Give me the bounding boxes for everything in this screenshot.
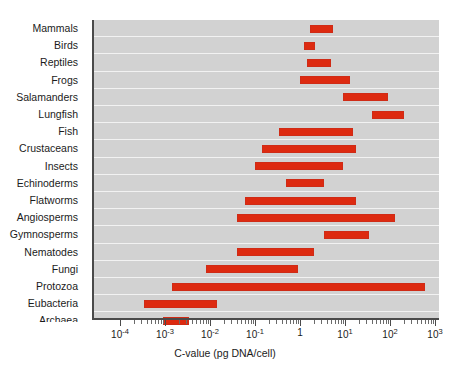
- x-tick-minor: [206, 320, 207, 324]
- x-tick-minor: [269, 320, 270, 324]
- range-bar-reptiles: [307, 59, 332, 67]
- x-tick-minor: [380, 320, 381, 324]
- x-tick-major: [165, 320, 166, 326]
- x-tick-label: 10-2: [201, 327, 219, 340]
- x-tick-minor: [141, 320, 142, 324]
- x-tick-minor: [231, 320, 232, 324]
- x-tick-minor: [331, 320, 332, 324]
- x-tick-minor: [147, 320, 148, 324]
- x-tick-minor: [338, 320, 339, 324]
- x-tick-minor: [241, 320, 242, 324]
- axis-label-clip-mask: [0, 322, 86, 340]
- x-tick-minor: [404, 320, 405, 324]
- category-label-flatworms: Flatworms: [30, 195, 78, 206]
- category-label-insects: Insects: [45, 161, 78, 172]
- x-tick-minor: [341, 320, 342, 324]
- row-band: [94, 123, 439, 140]
- x-tick-minor: [163, 320, 164, 324]
- range-bar-angiosperms: [237, 214, 395, 222]
- x-tick-minor: [321, 320, 322, 324]
- x-tick-minor: [359, 320, 360, 324]
- row-band: [94, 175, 439, 192]
- range-bar-mammals: [310, 25, 333, 33]
- row-band: [94, 37, 439, 54]
- x-tick-minor: [282, 320, 283, 324]
- x-tick-minor: [431, 320, 432, 324]
- x-tick-minor: [298, 320, 299, 324]
- x-tick-minor: [276, 320, 277, 324]
- x-tick-label: 103: [427, 327, 442, 340]
- x-tick-minor: [196, 320, 197, 324]
- row-band: [94, 72, 439, 89]
- x-tick-minor: [151, 320, 152, 324]
- x-tick-minor: [293, 320, 294, 324]
- category-label-gymnosperms: Gymnosperms: [10, 229, 78, 240]
- x-tick-minor: [417, 320, 418, 324]
- x-tick-minor: [421, 320, 422, 324]
- range-bar-eubacteria: [144, 300, 216, 308]
- x-tick-minor: [158, 320, 159, 324]
- x-tick-major: [255, 320, 256, 326]
- range-bar-echinoderms: [286, 179, 324, 187]
- x-tick-minor: [192, 320, 193, 324]
- category-label-echinoderms: Echinoderms: [17, 178, 78, 189]
- x-tick-minor: [425, 320, 426, 324]
- range-bar-flatworms: [245, 197, 356, 205]
- x-tick-minor: [335, 320, 336, 324]
- x-tick-minor: [290, 320, 291, 324]
- x-tick-minor: [224, 320, 225, 324]
- category-label-frogs: Frogs: [51, 75, 78, 86]
- x-tick-label: 10-4: [111, 327, 129, 340]
- range-bar-fish: [279, 128, 352, 136]
- category-label-fish: Fish: [58, 126, 78, 137]
- x-tick-minor: [388, 320, 389, 324]
- x-tick-minor: [286, 320, 287, 324]
- x-tick-minor: [237, 320, 238, 324]
- range-bar-birds: [304, 42, 316, 50]
- x-tick-label: 101: [337, 327, 352, 340]
- x-tick-major: [435, 320, 436, 326]
- category-label-nematodes: Nematodes: [24, 247, 78, 258]
- x-tick-minor: [203, 320, 204, 324]
- x-tick-major: [120, 320, 121, 326]
- x-tick-minor: [208, 320, 209, 324]
- category-label-reptiles: Reptiles: [40, 57, 78, 68]
- x-tick-major: [345, 320, 346, 326]
- x-tick-minor: [372, 320, 373, 324]
- range-bar-fungi: [206, 265, 298, 273]
- row-band: [94, 20, 439, 37]
- row-band: [94, 226, 439, 243]
- row-band: [94, 54, 439, 71]
- range-bar-frogs: [300, 76, 350, 84]
- x-tick-minor: [411, 320, 412, 324]
- x-tick-minor: [383, 320, 384, 324]
- x-tick-minor: [134, 320, 135, 324]
- x-tick-minor: [428, 320, 429, 324]
- x-tick-minor: [245, 320, 246, 324]
- x-axis-line: [92, 318, 439, 320]
- range-bar-lungfish: [372, 111, 403, 119]
- x-tick-minor: [314, 320, 315, 324]
- range-bar-insects: [255, 162, 343, 170]
- x-tick-minor: [253, 320, 254, 324]
- range-bar-crustaceans: [262, 145, 357, 153]
- x-tick-minor: [155, 320, 156, 324]
- range-bar-salamanders: [343, 93, 388, 101]
- c-value-range-chart: MammalsBirdsReptilesFrogsSalamandersLung…: [0, 0, 450, 371]
- x-tick-major: [300, 320, 301, 326]
- category-label-lungfish: Lungfish: [38, 109, 78, 120]
- x-tick-minor: [161, 320, 162, 324]
- x-tick-major: [390, 320, 391, 326]
- category-label-protozoa: Protozoa: [36, 281, 78, 292]
- range-bar-protozoa: [172, 283, 425, 291]
- category-label-eubacteria: Eubacteria: [28, 298, 78, 309]
- x-tick-minor: [386, 320, 387, 324]
- x-tick-minor: [248, 320, 249, 324]
- x-axis-title: C-value (pg DNA/cell): [0, 347, 450, 359]
- x-tick-minor: [327, 320, 328, 324]
- x-tick-minor: [433, 320, 434, 324]
- x-tick-label: 102: [382, 327, 397, 340]
- x-tick-minor: [186, 320, 187, 324]
- x-tick-minor: [366, 320, 367, 324]
- x-tick-minor: [251, 320, 252, 324]
